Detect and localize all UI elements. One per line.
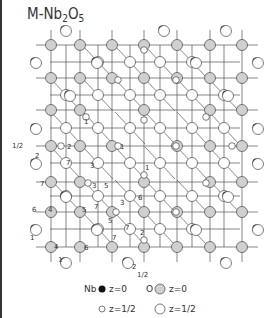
oxygen-atom-z0 xyxy=(46,40,57,51)
oxygen-atom-z-half xyxy=(219,123,230,134)
oxygen-atom-z-half xyxy=(159,26,170,37)
legend-o-half-icon xyxy=(155,304,165,314)
niobium-atom-z-half xyxy=(113,209,120,216)
oxygen-atom-z0 xyxy=(75,73,86,84)
oxygen-atom-z0 xyxy=(107,242,118,253)
oxygen-atom-z-half xyxy=(93,191,104,202)
oxygen-atom-z-half xyxy=(219,158,230,169)
oxygen-atom-z0 xyxy=(75,141,86,152)
niobium-atom-z-half xyxy=(85,180,92,187)
oxygen-atom-z-half xyxy=(61,192,72,203)
site-label: 3 xyxy=(120,199,124,207)
site-label: 1 xyxy=(30,234,34,242)
oxygen-atom-z-half xyxy=(31,159,42,170)
oxygen-atom-z-half xyxy=(93,123,104,134)
legend-nb-half-text: z=1/2 xyxy=(109,304,136,314)
oxygen-atom-z0 xyxy=(172,40,183,51)
oxygen-atom-z-half xyxy=(155,224,166,235)
oxygen-atom-z-half xyxy=(253,225,264,236)
oxygen-atom-z0 xyxy=(237,73,248,84)
oxygen-atom-z0 xyxy=(46,177,57,188)
niobium-atom-z-half xyxy=(203,114,210,121)
site-label: 7 xyxy=(94,203,98,211)
site-label: 5 xyxy=(108,217,112,225)
oxygen-atom-z-half xyxy=(125,57,136,68)
oxygen-atom-z0 xyxy=(205,73,216,84)
oxygen-atom-z0 xyxy=(107,40,118,51)
oxygen-atom-z0 xyxy=(237,141,248,152)
oxygen-atom-z-half xyxy=(191,58,202,69)
oxygen-atom-z0 xyxy=(46,73,57,84)
niobium-atom-z-half xyxy=(173,77,180,84)
oxygen-atom-z0 xyxy=(237,207,248,218)
oxygen-atom-z-half xyxy=(155,158,166,169)
oxygen-atom-z-half xyxy=(65,91,76,102)
site-label: 3 xyxy=(90,162,94,170)
site-label: 1 xyxy=(58,256,62,264)
oxygen-atom-z-half xyxy=(155,90,166,101)
axis-label-left: 1/2 xyxy=(12,142,23,150)
niobium-atom-z-half xyxy=(115,77,122,84)
oxygen-atom-z0 xyxy=(205,207,216,218)
oxygen-atom-z-half xyxy=(221,26,232,37)
oxygen-atom-z0 xyxy=(237,242,248,253)
site-label: 6 xyxy=(138,194,143,202)
oxygen-atom-z-half xyxy=(93,90,104,101)
legend-nb-z0-text: z=0 xyxy=(109,284,127,294)
oxygen-atom-z0 xyxy=(46,105,57,116)
oxygen-atom-z-half xyxy=(61,123,72,134)
oxygen-atom-z-half xyxy=(223,91,234,102)
axis-label-bottom: 1/2 xyxy=(137,271,148,279)
site-label: 3 xyxy=(92,182,96,190)
site-label: 7 xyxy=(112,234,116,242)
oxygen-atom-z0 xyxy=(205,141,216,152)
legend: Nb z=0 O z=0 z=1/2 z=1/2 xyxy=(84,284,196,314)
legend-o-label: O xyxy=(146,284,153,294)
oxygen-atom-z0 xyxy=(237,177,248,188)
site-label: 5 xyxy=(82,206,86,214)
oxygen-atom-z0 xyxy=(46,141,57,152)
oxygen-atom-z-half xyxy=(125,158,136,169)
oxygen-atom-z0 xyxy=(172,242,183,253)
legend-o-half-text: z=1/2 xyxy=(169,304,196,314)
site-label: 7 xyxy=(66,159,70,167)
oxygen-atom-z-half xyxy=(155,57,166,68)
oxygen-atom-z-half xyxy=(155,123,166,134)
niobium-atom-z-half xyxy=(141,172,148,179)
site-label: 4 xyxy=(48,206,53,214)
oxygen-atom-z-half xyxy=(125,90,136,101)
oxygen-atom-z-half xyxy=(125,191,136,202)
oxygen-atom-z-half xyxy=(253,159,264,170)
niobium-atom-z-half xyxy=(203,180,210,187)
oxygen-atom-z-half xyxy=(92,225,103,236)
niobium-atom-z-half xyxy=(141,237,148,244)
site-label: 2 xyxy=(132,263,136,271)
site-label: 6 xyxy=(32,206,37,214)
oxygen-atom-z-half xyxy=(187,90,198,101)
oxygen-atom-z0 xyxy=(205,40,216,51)
oxygen-atom-z-half xyxy=(187,158,198,169)
oxygen-atom-z0 xyxy=(139,207,150,218)
legend-nb-z0-icon xyxy=(99,286,106,293)
niobium-atom-z-half xyxy=(173,143,180,150)
oxygen-atom-z-half xyxy=(191,225,202,236)
site-label: 1 xyxy=(84,118,88,126)
oxygen-atom-z-half xyxy=(253,58,264,69)
oxygen-atom-z0 xyxy=(139,73,150,84)
oxygen-atom-z0 xyxy=(139,105,150,116)
crystal-structure-diagram: 2113735735645614122771627 1/2 1/2 Nb z=0… xyxy=(0,0,269,318)
site-label: 1 xyxy=(145,164,149,172)
oxygen-atom-z-half xyxy=(221,258,232,269)
oxygen-atom-z-half xyxy=(31,124,42,135)
niobium-atom-z-half xyxy=(173,209,180,216)
oxygen-atom-z0 xyxy=(237,105,248,116)
oxygen-atom-z0 xyxy=(205,242,216,253)
niobium-atom-z-half xyxy=(141,117,148,124)
oxygen-atom-z-half xyxy=(253,124,264,135)
site-label: 6 xyxy=(84,244,89,252)
site-label: 7 xyxy=(40,180,44,188)
niobium-atom-z-half xyxy=(229,143,236,150)
legend-nb-half-icon xyxy=(99,306,105,312)
oxygen-atom-z0 xyxy=(237,40,248,51)
oxygen-atom-z-half xyxy=(92,58,103,69)
